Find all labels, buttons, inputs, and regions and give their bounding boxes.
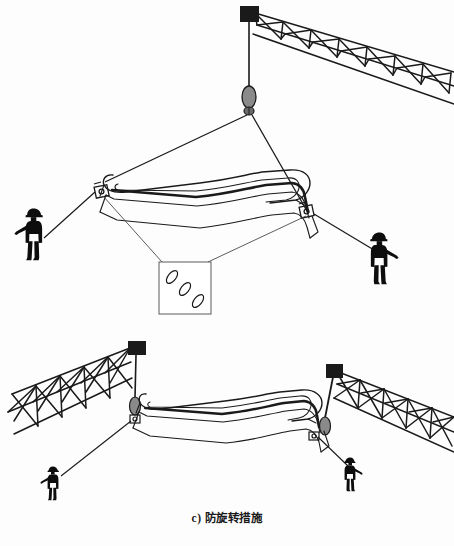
boom-tip-block [240,6,259,22]
shackle-left [94,182,109,198]
boom-tip-block-right [326,364,343,378]
tagline-left [44,192,95,238]
caption-label: c) [191,512,201,524]
curved-box-girder [100,170,318,238]
panel-top [14,6,454,314]
sling-leg-right [252,115,307,211]
callout-leader-lines [103,196,306,262]
curved-box-girder-bottom [133,390,329,452]
tagline-right [314,214,374,250]
anti-rotation-swivel [244,107,254,115]
tagline-left-bottom [61,421,131,476]
sling-leg-left [105,115,247,182]
boom-tip-block-left [128,341,146,355]
hook-block [242,86,256,108]
chain-detail-callout [159,262,211,314]
worker-right-bottom [344,457,363,491]
worker-left [14,209,42,261]
figure-root: c)防旋转措施 [0,0,454,546]
panel-bottom [8,341,454,500]
technical-illustration [0,0,454,546]
hoist-rope-right [325,377,333,418]
lattice-boom-right [334,371,454,452]
worker-right [370,233,398,285]
figure-caption: c)防旋转措施 [0,509,454,525]
lattice-boom-left [8,348,132,434]
caption-text: 防旋转措施 [205,512,263,524]
hoist-rope-left [135,355,136,398]
worker-left-bottom [40,466,59,500]
lattice-boom [253,13,454,104]
